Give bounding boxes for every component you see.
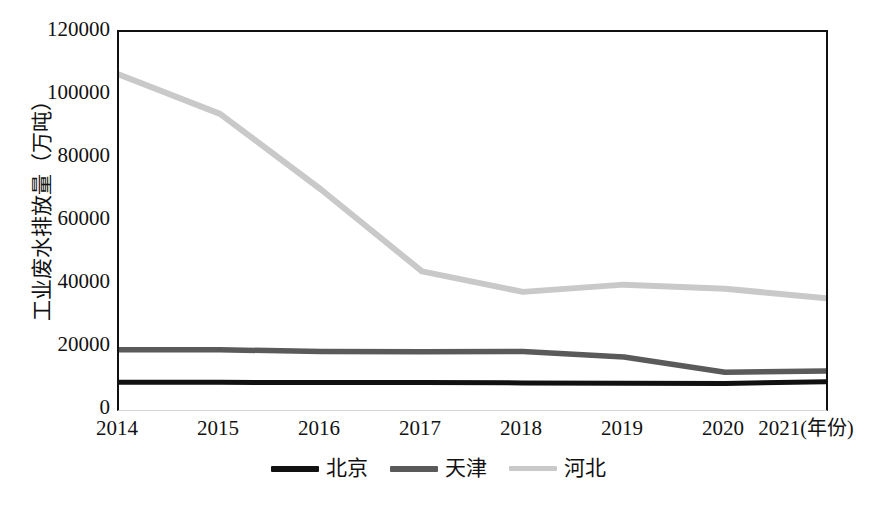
- chart-legend: 北京天津河北: [0, 458, 877, 479]
- series-line-河北: [119, 75, 826, 299]
- y-axis-tick-label: 80000: [10, 145, 110, 166]
- y-axis-tick-label: 40000: [10, 271, 110, 292]
- y-axis-tick-label: 100000: [10, 82, 110, 103]
- legend-swatch-icon: [509, 466, 557, 471]
- y-axis-tick-label: 0: [10, 397, 110, 418]
- y-axis-tick-labels: 020000400006000080000100000120000: [10, 0, 110, 507]
- x-axis-tick-labels: 20142015201620172018201920202021(年份): [117, 416, 824, 450]
- x-axis-tick-label: 2015: [197, 416, 239, 441]
- plot-area: [117, 30, 828, 411]
- series-line-北京: [119, 382, 826, 384]
- x-axis-tick-label: 2021(年份): [758, 416, 853, 441]
- legend-swatch-icon: [390, 466, 438, 472]
- x-axis-tick-label: 2016: [298, 416, 340, 441]
- chart-figure: 工业废水排放量（万吨） 0200004000060000800001000001…: [0, 0, 877, 507]
- series-lines: [119, 32, 826, 410]
- x-axis-tick-label: 2018: [500, 416, 542, 441]
- x-axis-tick-label: 2019: [601, 416, 643, 441]
- legend-label: 天津: [445, 458, 487, 479]
- legend-item[interactable]: 天津: [390, 458, 487, 479]
- x-axis-tick-label: 2014: [96, 416, 138, 441]
- legend-label: 河北: [564, 458, 606, 479]
- legend-item[interactable]: 北京: [271, 458, 368, 479]
- legend-item[interactable]: 河北: [509, 458, 606, 479]
- x-axis-unit-label: (年份): [800, 417, 853, 439]
- y-axis-tick-label: 20000: [10, 334, 110, 355]
- x-axis-tick-label: 2017: [399, 416, 441, 441]
- legend-label: 北京: [326, 458, 368, 479]
- series-line-天津: [119, 350, 826, 372]
- x-axis-tick-label: 2020: [702, 416, 744, 441]
- legend-swatch-icon: [271, 466, 319, 472]
- y-axis-tick-label: 120000: [10, 19, 110, 40]
- y-axis-tick-label: 60000: [10, 208, 110, 229]
